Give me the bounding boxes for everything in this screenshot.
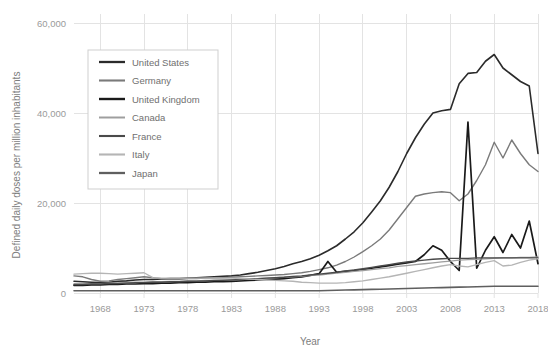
x-tick-label: 1988: [265, 303, 286, 314]
x-tick-label: 1968: [90, 303, 111, 314]
x-tick-label: 1978: [177, 303, 198, 314]
y-tick-label: 40,000: [37, 108, 66, 119]
legend-label-italy[interactable]: Italy: [132, 149, 150, 160]
x-tick-label: 1998: [352, 303, 373, 314]
legend-label-united-kingdom[interactable]: United Kingdom: [132, 94, 200, 105]
y-tick-label: 20,000: [37, 198, 66, 209]
x-tick-label: 2003: [396, 303, 417, 314]
legend-label-canada[interactable]: Canada: [132, 112, 166, 123]
legend-label-united-states[interactable]: United States: [132, 57, 189, 68]
x-tick-label: 2008: [440, 303, 461, 314]
y-tick-label: 60,000: [37, 18, 66, 29]
x-tick-label: 2013: [484, 303, 505, 314]
x-tick-label: 1983: [221, 303, 242, 314]
y-axis-title: Defined daily doses per million inhabita…: [11, 72, 22, 259]
x-tick-label: 1973: [133, 303, 154, 314]
line-chart: 020,00040,00060,000 19681973197819831988…: [0, 0, 548, 362]
y-axis-tick-labels: 020,00040,00060,000: [37, 18, 66, 299]
legend: United StatesGermanyUnited KingdomCanada…: [88, 50, 218, 189]
legend-label-france[interactable]: France: [132, 131, 162, 142]
y-tick-label: 0: [61, 288, 66, 299]
x-tick-label: 2018: [527, 303, 548, 314]
x-axis-tick-labels: 1968197319781983198819931998200320082013…: [90, 293, 548, 314]
x-axis-title: Year: [300, 336, 321, 347]
x-tick-label: 1993: [309, 303, 330, 314]
legend-label-japan[interactable]: Japan: [132, 168, 158, 179]
legend-label-germany[interactable]: Germany: [132, 75, 171, 86]
chart-container: 020,00040,00060,000 19681973197819831988…: [0, 0, 548, 362]
